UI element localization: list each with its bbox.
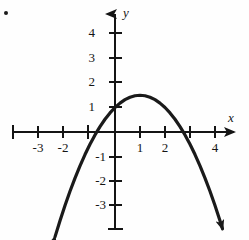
y-tick-label-1: 1 xyxy=(89,100,96,113)
y-axis-label: y xyxy=(123,6,129,19)
y-tick-label-4: 4 xyxy=(89,26,96,39)
x-tick-label-1: 1 xyxy=(137,141,144,154)
graph-figure: 4 3 2 1 -1 -2 -3 -3 -2 1 2 4 y x xyxy=(0,0,249,240)
x-axis xyxy=(13,125,234,139)
y-tick-label-neg3: -3 xyxy=(95,198,106,211)
y-tick-label-2: 2 xyxy=(89,75,96,88)
y-tick-label-3: 3 xyxy=(89,51,96,64)
parabola-curve xyxy=(55,95,223,237)
coordinate-plane-svg xyxy=(0,0,249,240)
y-tick-label-neg1: -1 xyxy=(95,150,106,163)
x-tick-label-4: 4 xyxy=(212,141,219,154)
y-tick-label-neg2: -2 xyxy=(95,174,106,187)
x-axis-label: x xyxy=(228,111,234,124)
x-tick-label-neg3: -3 xyxy=(33,141,44,154)
x-tick-label-neg2: -2 xyxy=(58,141,69,154)
y-axis xyxy=(108,14,123,230)
x-tick-label-2: 2 xyxy=(162,141,169,154)
